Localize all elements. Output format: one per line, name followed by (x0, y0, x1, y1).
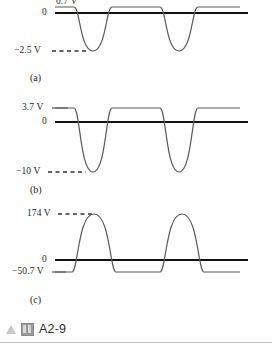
panel-b-top-label: 3.7 V (22, 102, 43, 112)
waveform-panel-a (0, 0, 272, 70)
panel-b-bottom-label: −10 V (16, 166, 40, 176)
caption-row[interactable]: A2-9 (6, 322, 66, 336)
panel-a-zero-label: 0 (42, 7, 47, 17)
panel-c-top-label: 174 V (27, 208, 51, 218)
panel-a-caption: (a) (30, 72, 41, 83)
image-thumbnail-icon[interactable] (21, 323, 34, 336)
caption-divider (0, 342, 272, 343)
waveform-panel-b (0, 100, 272, 195)
panel-c-caption: (c) (30, 294, 41, 305)
panel-b-caption: (b) (30, 184, 42, 195)
figure-area: 0.7 V 0 −2.5 V (a) 3.7 V 0 −10 V (b) 174… (0, 0, 272, 310)
panel-a-top-label: 0.7 V (56, 0, 77, 6)
panel-c-bottom-label: −50.7 V (12, 266, 44, 276)
figure-id-label: A2-9 (39, 322, 66, 336)
panel-a-bottom-label: −2.5 V (14, 45, 41, 55)
panel-c-zero-label: 0 (42, 254, 47, 264)
panel-b-zero-label: 0 (42, 116, 47, 126)
triangle-collapse-icon[interactable] (6, 325, 16, 334)
caption-bar: A2-9 (0, 318, 272, 349)
waveform-panel-c (0, 205, 272, 295)
